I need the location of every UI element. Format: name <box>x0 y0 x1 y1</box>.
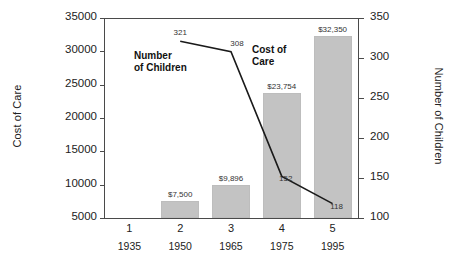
y-left-tick-label: 20000 <box>37 110 97 122</box>
y-right-tick-mark <box>359 18 364 19</box>
y-right-tick-label: 100 <box>370 210 430 222</box>
y-right-tick-label: 300 <box>370 50 430 62</box>
y-right-tick-mark <box>359 178 364 179</box>
y-right-tick-mark <box>359 98 364 99</box>
y-left-tick-label: 15000 <box>37 143 97 155</box>
line-value-label: 321 <box>155 28 205 37</box>
line-value-label: 118 <box>312 202 362 211</box>
x-axis-category-label: 5 <box>303 222 363 234</box>
y-right-tick-label: 150 <box>370 170 430 182</box>
annotation-number-of-children: Number of Children <box>134 50 187 74</box>
line-series-number-of-children <box>104 18 359 219</box>
plot-area: 5000100001500020000250003000035000 10015… <box>104 18 359 219</box>
y-right-tick-label: 250 <box>370 90 430 102</box>
y-left-tick-label: 5000 <box>37 210 97 222</box>
y-left-tick-label: 10000 <box>37 177 97 189</box>
annotation-cost-of-care: Cost of Care <box>252 44 286 68</box>
y-right-tick-label: 200 <box>370 130 430 142</box>
y-right-tick-mark <box>359 58 364 59</box>
y-right-tick-label: 350 <box>370 10 430 22</box>
y-right-tick-mark <box>359 218 364 219</box>
chart-container: Cost of Care Number of Children 50001000… <box>0 0 453 268</box>
y-axis-left-title: Cost of Care <box>11 66 23 166</box>
line-value-label: 152 <box>261 174 311 183</box>
y-left-tick-label: 35000 <box>37 10 97 22</box>
x-axis-year-label: 1995 <box>303 240 363 252</box>
y-right-tick-mark <box>359 138 364 139</box>
y-left-tick-label: 30000 <box>37 43 97 55</box>
y-axis-right-title: Number of Children <box>433 56 445 176</box>
y-left-tick-label: 25000 <box>37 77 97 89</box>
